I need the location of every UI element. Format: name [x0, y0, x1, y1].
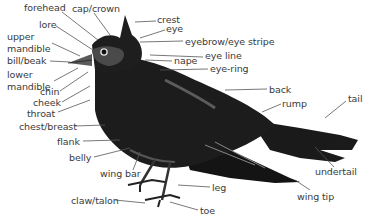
bird-anatomy-diagram: forehead cap/crown crest eye lore upper …: [0, 0, 369, 217]
label-undertail: undertail: [315, 167, 357, 177]
label-chin: chin: [40, 87, 60, 97]
bird-illustration: [0, 0, 369, 217]
label-tail: tail: [348, 94, 362, 104]
label-eye: eye: [166, 24, 183, 34]
label-wing-bar: wing bar: [100, 169, 140, 179]
label-upper-mandible: upper mandible: [7, 31, 50, 55]
label-chest-breast: chest/breast: [19, 122, 77, 132]
label-back: back: [269, 85, 291, 95]
label-cap-crown: cap/crown: [72, 4, 120, 14]
label-eyebrow-eye-stripe: eyebrow/eye stripe: [185, 37, 274, 47]
label-rump: rump: [282, 99, 307, 109]
label-flank: flank: [57, 137, 80, 147]
label-belly: belly: [69, 153, 91, 163]
label-eye-line: eye line: [205, 51, 242, 61]
label-eye-ring: eye-ring: [210, 64, 249, 74]
label-lore: lore: [39, 20, 57, 30]
label-cheek: cheek: [33, 98, 61, 108]
label-leg: leg: [212, 183, 226, 193]
label-forehead: forehead: [24, 3, 66, 13]
label-throat: throat: [27, 109, 55, 119]
label-claw-talon: claw/talon: [71, 196, 119, 206]
label-nape: nape: [174, 56, 197, 66]
label-bill-beak: bill/beak: [7, 56, 46, 66]
label-toe: toe: [200, 206, 215, 216]
label-wing-tip: wing tip: [297, 192, 334, 202]
